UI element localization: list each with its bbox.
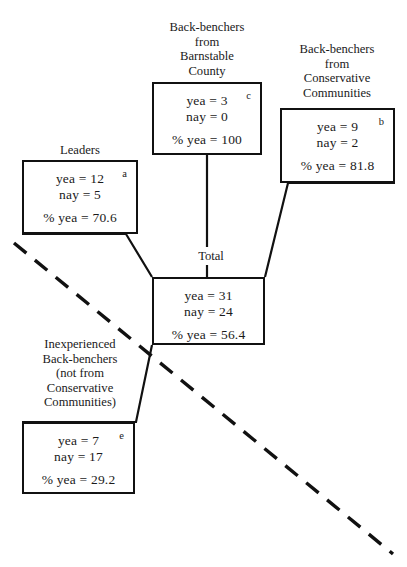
node-box-conservative[interactable]: b yea = 9 nay = 2 % yea = 81.8 [280, 108, 395, 183]
connector-leaders-to-total [22, 234, 152, 277]
total-pct-yea: % yea = 56.4 [154, 327, 263, 343]
total-nay: nay = 24 [154, 304, 263, 320]
leaders-nay: nay = 5 [24, 187, 136, 203]
connector-conservative-to-total [265, 183, 395, 277]
inexperienced-yea: yea = 7 [24, 433, 133, 449]
node-box-total[interactable]: yea = 31 nay = 24 % yea = 56.4 [152, 277, 265, 345]
caption-conservative: Back-benchers from Conservative Communit… [276, 42, 398, 100]
leaders-pct-yea: % yea = 70.6 [24, 210, 136, 226]
caption-leaders: Leaders [22, 143, 138, 158]
inexperienced-pct-yea: % yea = 29.2 [24, 472, 133, 488]
diagram-canvas: Leaders a yea = 12 nay = 5 % yea = 70.6 … [0, 0, 407, 567]
caption-barnstable: Back-benchers from Barnstable County [145, 20, 269, 78]
node-box-barnstable[interactable]: c yea = 3 nay = 0 % yea = 100 [152, 82, 262, 155]
node-box-inexperienced[interactable]: e yea = 7 nay = 17 % yea = 29.2 [22, 422, 135, 494]
conservative-yea: yea = 9 [282, 119, 393, 135]
caption-total: Total [181, 249, 241, 263]
inexperienced-nay: nay = 17 [24, 449, 133, 465]
barnstable-pct-yea: % yea = 100 [154, 132, 260, 148]
node-box-leaders[interactable]: a yea = 12 nay = 5 % yea = 70.6 [22, 160, 138, 234]
leaders-yea: yea = 12 [24, 171, 136, 187]
conservative-pct-yea: % yea = 81.8 [282, 158, 393, 174]
barnstable-nay: nay = 0 [154, 109, 260, 125]
page-watermark [0, 0, 407, 12]
caption-inexperienced: Inexperienced Back-benchers (not from Co… [18, 337, 142, 410]
total-yea: yea = 31 [154, 288, 263, 304]
barnstable-yea: yea = 3 [154, 93, 260, 109]
conservative-nay: nay = 2 [282, 135, 393, 151]
